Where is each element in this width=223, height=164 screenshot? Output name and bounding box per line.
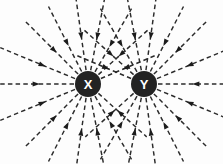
arrow-head-inward — [163, 38, 169, 46]
arrow-head-inward — [38, 102, 46, 107]
arrow-head-inward — [50, 46, 57, 53]
arrow-head-inward — [78, 32, 83, 39]
arrow-head-inward — [186, 61, 194, 66]
charge-x-label: X — [84, 77, 93, 92]
field-line — [157, 48, 223, 79]
charge-x[interactable]: X — [75, 71, 101, 97]
arrow-head-inward — [109, 121, 115, 128]
arrow-head-inward — [117, 40, 123, 47]
arrow-head-inward — [63, 122, 69, 130]
arrow-head-inward — [109, 40, 115, 47]
field-line — [0, 89, 75, 120]
field-line — [101, 96, 138, 159]
arrow-head-inward — [186, 102, 194, 107]
arrow-head-inward — [117, 121, 123, 128]
arrow-head-inward — [50, 115, 57, 122]
arrow-head-inward — [175, 115, 182, 122]
charges-group: X Y — [75, 71, 157, 97]
field-line — [0, 48, 75, 79]
arrow-head-inward — [123, 64, 131, 69]
field-line — [154, 20, 208, 74]
arrow-head-inward — [163, 122, 169, 130]
field-line — [24, 20, 78, 74]
arrow-head-inward — [63, 38, 69, 46]
arrow-head-inward — [149, 32, 154, 39]
field-line — [95, 96, 132, 159]
arrow-head-inward — [175, 46, 182, 53]
field-line-canvas: X Y — [0, 0, 223, 164]
charge-y[interactable]: Y — [131, 71, 157, 97]
field-diagram-figure: X Y — [0, 0, 223, 164]
field-line — [101, 9, 138, 72]
arrow-head-inward — [149, 129, 154, 136]
arrow-head-inward — [192, 82, 199, 87]
arrow-head-inward — [38, 61, 46, 66]
field-line — [95, 9, 132, 72]
charge-y-label: Y — [140, 77, 149, 92]
arrow-head-inward — [78, 129, 83, 136]
arrow-head-inward — [33, 82, 40, 87]
field-line — [157, 89, 223, 120]
arrow-head-inward — [102, 64, 110, 69]
field-line — [154, 94, 208, 148]
field-line — [24, 94, 78, 148]
